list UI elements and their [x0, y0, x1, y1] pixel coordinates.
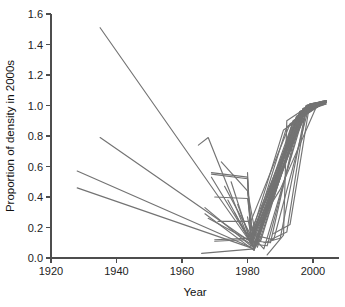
- line-chart-plot: 192019401960198020000.00.20.40.60.81.01.…: [0, 0, 345, 307]
- series-line: [234, 101, 326, 247]
- y-tick-label: 0.0: [28, 252, 43, 264]
- y-tick-label: 1.0: [28, 100, 43, 112]
- y-tick-label: 0.8: [28, 130, 43, 142]
- y-tick-label: 0.2: [28, 222, 43, 234]
- y-tick-label: 0.6: [28, 161, 43, 173]
- axis-labels-layer: 192019401960198020000.00.20.40.60.81.01.…: [4, 8, 325, 298]
- x-tick-label: 1980: [235, 265, 259, 277]
- y-tick-label: 1.2: [28, 69, 43, 81]
- series-layer: [77, 28, 326, 255]
- y-axis-title: Proportion of density in 2000s: [4, 60, 16, 212]
- y-tick-label: 1.4: [28, 39, 43, 51]
- x-tick-label: 1920: [39, 265, 63, 277]
- x-tick-label: 1940: [104, 265, 128, 277]
- y-tick-label: 1.6: [28, 8, 43, 20]
- chart-figure: 192019401960198020000.00.20.40.60.81.01.…: [0, 0, 345, 307]
- x-axis-title: Year: [183, 286, 206, 298]
- x-tick-label: 2000: [301, 265, 325, 277]
- x-tick-label: 1960: [170, 265, 194, 277]
- y-tick-label: 0.4: [28, 191, 43, 203]
